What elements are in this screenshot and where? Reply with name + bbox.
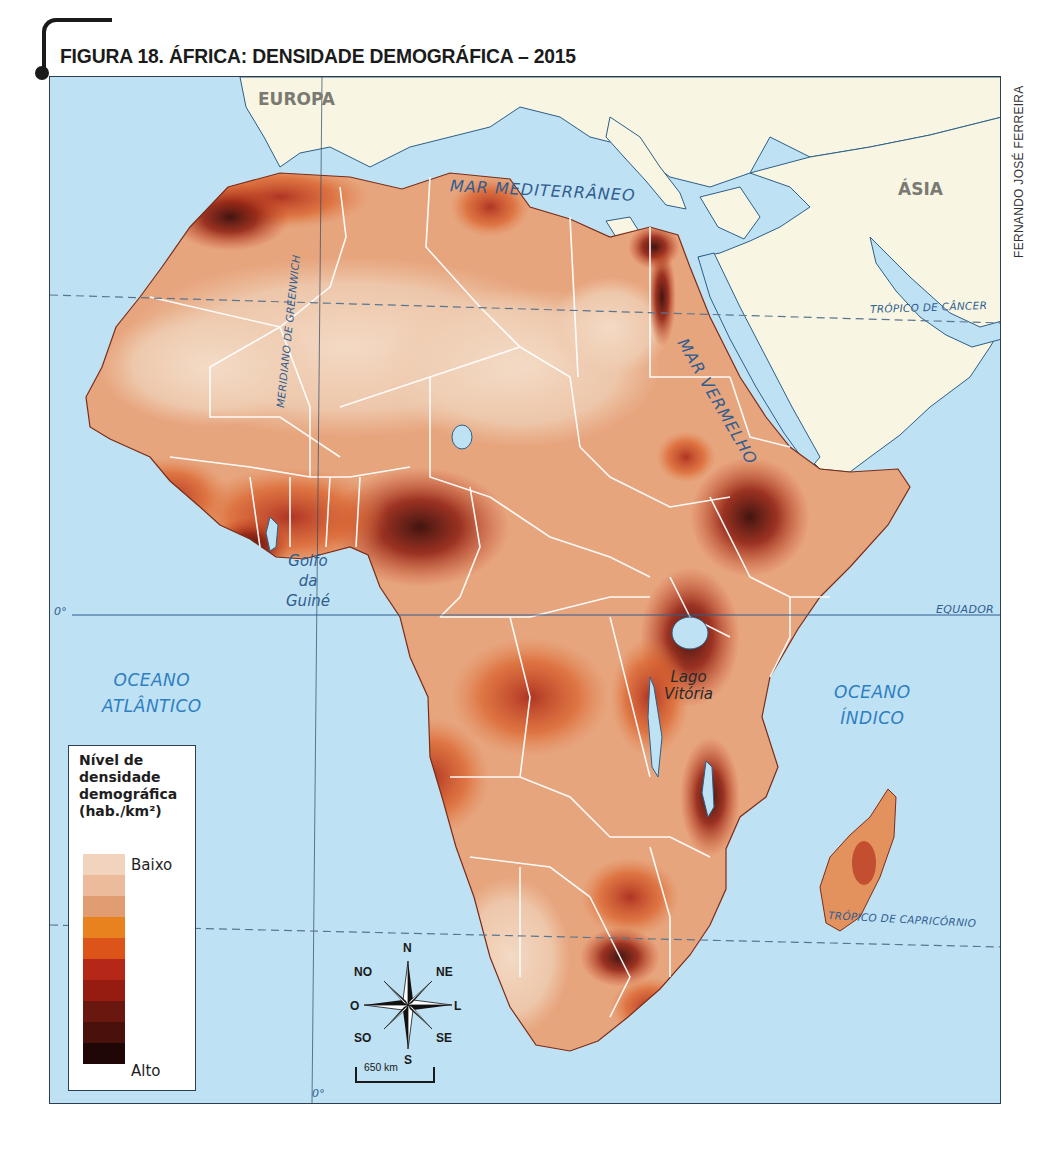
legend-swatch-2: [83, 875, 125, 896]
legend-swatch-7: [83, 980, 125, 1001]
label-gulf-of-guinea: Golfo da Guiné: [286, 551, 330, 611]
figure-header: FIGURA 18. ÁFRICA: DENSIDADE DEMOGRÁFICA…: [40, 18, 1000, 76]
legend-swatch-10: [83, 1043, 125, 1064]
compass-ne: NE: [436, 965, 453, 979]
compass-rose: N NE L SE S SO O NO: [348, 945, 468, 1065]
lake-victoria: [672, 617, 708, 649]
greece: [700, 187, 760, 239]
lake-chad: [452, 425, 472, 449]
label-lake-victoria: Lago Vitória: [664, 669, 713, 703]
label-asia: ÁSIA: [898, 179, 943, 199]
compass-s: S: [404, 1053, 412, 1067]
label-equator: EQUADOR: [936, 603, 994, 616]
legend-low-label: Baixo: [131, 856, 172, 874]
figure-title: FIGURA 18. ÁFRICA: DENSIDADE DEMOGRÁFICA…: [60, 44, 576, 68]
compass-o: O: [350, 999, 359, 1013]
legend-swatch-3: [83, 896, 125, 917]
legend-swatch-4: [83, 917, 125, 938]
africa-density-map: EUROPA ÁSIA MAR MEDITERRÂNEO MAR VERMELH…: [49, 76, 1001, 1104]
title-bullet-decoration: [35, 66, 49, 80]
label-europa: EUROPA: [258, 89, 335, 109]
legend-swatch-5: [83, 938, 125, 959]
label-atlantic-ocean: OCEANO ATLÂNTICO: [102, 667, 202, 719]
legend-swatch-9: [83, 1022, 125, 1043]
compass-star-icon: [348, 945, 468, 1065]
map-credit: FERNANDO JOSÉ FERREIRA: [1012, 58, 1026, 258]
legend-swatch-6: [83, 959, 125, 980]
legend-high-label: Alto: [131, 1062, 161, 1080]
scale-bar: [355, 1067, 435, 1083]
compass-se: SE: [436, 1031, 452, 1045]
legend-color-ramp: [83, 854, 125, 1064]
compass-no: NO: [354, 965, 372, 979]
compass-n: N: [403, 941, 412, 955]
label-longitude-zero: 0°: [312, 1087, 325, 1100]
label-indian-ocean: OCEANO ÍNDICO: [834, 679, 911, 731]
compass-l: L: [454, 999, 461, 1013]
legend-swatch-8: [83, 1001, 125, 1022]
label-latitude-zero: 0°: [54, 605, 67, 618]
density-legend: Nível de densidade demográfica (hab./km²…: [68, 745, 196, 1091]
compass-so: SO: [354, 1031, 371, 1045]
legend-swatch-1: [83, 854, 125, 875]
legend-title: Nível de densidade demográfica (hab./km²…: [79, 752, 194, 820]
